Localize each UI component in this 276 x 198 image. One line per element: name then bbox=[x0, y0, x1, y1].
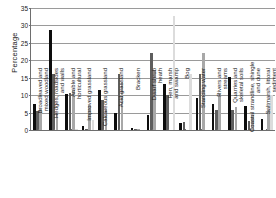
x-axis-label-cell: Dwarf shrubheath bbox=[144, 131, 160, 197]
x-axis-tick-label: Improved grassland bbox=[86, 68, 92, 132]
x-axis-labels: Broadleaved andmixed woodlandHedges, roa… bbox=[30, 131, 274, 197]
x-axis-tick-label: Bracken bbox=[135, 68, 141, 132]
x-axis-label-cell: Bog bbox=[176, 131, 192, 197]
x-axis-tick-label: Dwarf shrubheath bbox=[151, 68, 164, 132]
x-axis-label-cell: Bracken bbox=[128, 131, 144, 197]
x-axis-label-cell: Fen, marshand swamp bbox=[160, 131, 176, 197]
x-axis-label-cell: Arable andhorticultural bbox=[63, 131, 79, 197]
x-axis-tick-label: Saltmarsh, littoralsediment bbox=[265, 68, 276, 132]
x-axis-tick-label: Acid grassland bbox=[118, 68, 124, 132]
bar bbox=[114, 113, 117, 130]
x-axis-label-cell: Broadleaved andmixed woodland bbox=[30, 131, 46, 197]
x-axis-tick-label: Calcareous grassland bbox=[102, 68, 108, 132]
x-axis-label-cell: Saltmarsh, littoralsediment bbox=[258, 131, 274, 197]
x-axis-label-cell: Standing water bbox=[193, 131, 209, 197]
y-axis-title: Percentage bbox=[10, 13, 19, 93]
x-axis-label-cell: Coastal strandline, shingleand dune bbox=[241, 131, 257, 197]
x-axis-label-cell: Acid grassland bbox=[111, 131, 127, 197]
x-axis-tick-label: Hedges, roadsidesand walls bbox=[53, 68, 66, 132]
bar bbox=[147, 115, 150, 130]
bar bbox=[65, 94, 68, 130]
x-axis-tick-label: Rivers andstreams bbox=[216, 68, 229, 132]
x-axis-tick-label: Broadleaved andmixed woodland bbox=[37, 68, 50, 132]
bar bbox=[33, 104, 36, 130]
x-axis-tick-label: Standing water bbox=[200, 68, 206, 132]
x-axis-label-cell: Hedges, roadsidesand walls bbox=[46, 131, 62, 197]
bar bbox=[196, 98, 199, 130]
x-axis-label-cell: Rivers andstreams bbox=[209, 131, 225, 197]
x-axis-tick-label: Fen, marshand swamp bbox=[167, 68, 180, 132]
x-axis-label-cell: Calcareous grassland bbox=[95, 131, 111, 197]
x-axis-tick-label: Quarries andskeletal soils bbox=[232, 68, 245, 132]
bar-chart: Percentage 05101520253035 Broadleaved an… bbox=[0, 0, 276, 198]
x-axis-label-cell: Quarries andskeletal soils bbox=[225, 131, 241, 197]
x-axis-tick-label: Arable andhorticultural bbox=[70, 68, 83, 132]
x-axis-tick-label: Coastal strandline, shingleand dune bbox=[249, 68, 262, 132]
x-axis-label-cell: Improved grassland bbox=[79, 131, 95, 197]
bar bbox=[212, 104, 215, 130]
x-axis-tick-label: Bog bbox=[184, 68, 190, 132]
bar bbox=[131, 128, 134, 130]
bar bbox=[98, 90, 101, 130]
